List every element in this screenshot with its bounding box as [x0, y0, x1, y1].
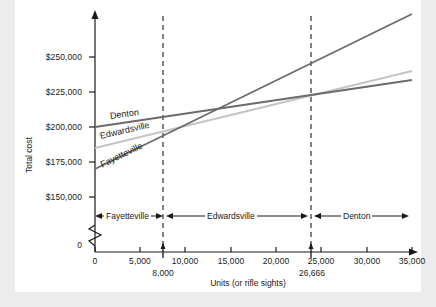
x-tick-label-30000: 30,000: [346, 256, 388, 266]
y-tick-marks: [89, 57, 95, 197]
breakpoint-label-26666: 26,666: [288, 268, 336, 278]
x-tick-label-20000: 20,000: [255, 256, 297, 266]
x-tick-label-0: 0: [80, 256, 110, 266]
x-tick-label-15000: 15,000: [210, 256, 252, 266]
x-tick-label-25000: 25,000: [300, 256, 342, 266]
y-tick-label-200000: $200,000: [20, 122, 82, 132]
range-label-denton: Denton: [341, 211, 372, 221]
x-tick-label-35000: 35,000: [391, 256, 433, 266]
y-tick-label-150000: $150,000: [20, 192, 82, 202]
y-tick-label-175000: $175,000: [20, 157, 82, 167]
x-tick-marks: [95, 247, 412, 252]
x-axis-title: Units (or rifle sights): [168, 278, 328, 288]
y-tick-label-225000: $225,000: [20, 87, 82, 97]
breakpoint-label-8000: 8,000: [141, 268, 185, 278]
y-origin-label: 0: [60, 240, 82, 250]
x-axis: [95, 249, 418, 256]
range-label-fayetteville: Fayetteville: [104, 211, 151, 221]
y-tick-label-250000: $250,000: [20, 52, 82, 62]
x-tick-label-5000: 5,000: [119, 256, 161, 266]
series-line-edwardsville: [95, 71, 412, 148]
range-label-edwardsville: Edwardsville: [205, 211, 257, 221]
x-tick-label-10000: 10,000: [164, 256, 206, 266]
